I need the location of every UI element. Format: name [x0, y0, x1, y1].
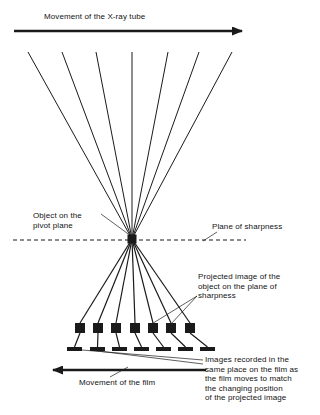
film-mark-6 [200, 347, 215, 351]
ray-to-film-5 [171, 333, 186, 347]
projected-leader-b [150, 296, 197, 325]
ray-to-film-2 [116, 333, 120, 347]
projected-image-square-1 [93, 323, 103, 333]
projected-image-markers [75, 323, 195, 333]
ray-to-film-6 [190, 333, 208, 347]
ray-to-film-1 [98, 333, 99, 347]
ray-lower-6 [132, 239, 190, 323]
film-mark-4 [156, 347, 171, 351]
film-mark-5 [178, 347, 193, 351]
ray-to-film-0 [75, 333, 81, 347]
ray-upper-6 [132, 52, 232, 239]
movement-arrows [14, 31, 242, 370]
film-mark-3 [134, 347, 149, 351]
projected-image-square-0 [75, 323, 85, 333]
projected-image-square-6 [185, 323, 195, 333]
ray-to-film-4 [153, 333, 164, 347]
film-mark-2 [112, 347, 127, 351]
film-leader [110, 367, 128, 377]
label-leader-lines [70, 214, 217, 377]
tomography-diagram: Movement of the X-ray tube Object on the… [0, 0, 320, 415]
label-projected-image: Projected image of the object on the pla… [198, 272, 280, 301]
recorded-leader-b [90, 350, 203, 364]
label-film-movement: Movement of the film [79, 378, 155, 388]
ray-upper-5 [132, 52, 199, 239]
label-object-pivot-plane: Object on the pivot plane [33, 211, 82, 230]
pivot-object-square [128, 235, 137, 244]
projected-image-square-4 [148, 323, 158, 333]
ray-to-film-3 [135, 333, 142, 347]
projected-image-square-5 [166, 323, 176, 333]
object-pivot-marker [128, 235, 137, 244]
label-images-recorded: Images recorded in the same place on the… [205, 355, 298, 403]
label-tube-movement: Movement of the X-ray tube [44, 12, 145, 22]
ray-upper-4 [132, 52, 168, 239]
projected-image-square-2 [111, 323, 121, 333]
ray-upper-2 [96, 52, 132, 239]
label-plane-of-sharpness: Plane of sharpness [212, 222, 282, 232]
film-mark-0 [67, 347, 82, 351]
diagram-canvas [0, 0, 320, 415]
ray-lower-5 [132, 239, 171, 323]
ray-lower-1 [98, 239, 132, 323]
projected-image-square-3 [130, 323, 140, 333]
